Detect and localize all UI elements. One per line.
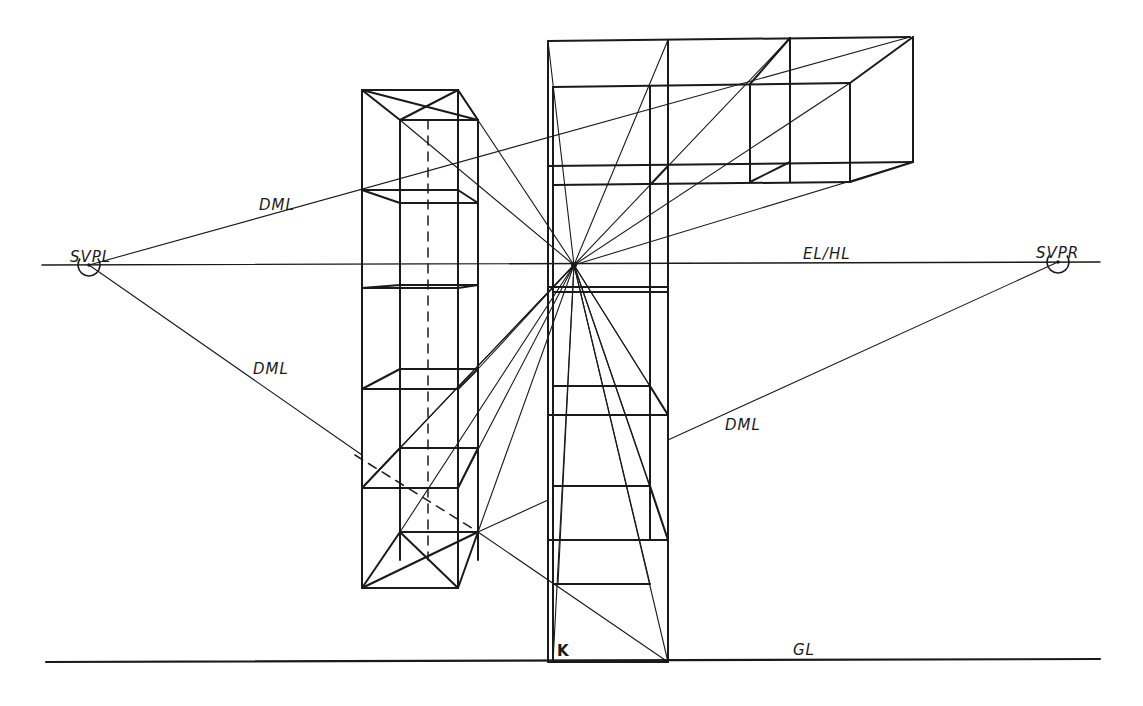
object-edge bbox=[553, 83, 850, 87]
label-svpr: SVPR bbox=[1036, 246, 1079, 261]
construction-line bbox=[89, 265, 362, 455]
object-edge bbox=[458, 448, 478, 488]
perspective-diagram bbox=[0, 0, 1143, 706]
object-lines bbox=[362, 37, 913, 662]
object-edge bbox=[750, 38, 790, 84]
object-edge bbox=[548, 162, 913, 166]
construction-line bbox=[574, 83, 850, 265]
label-dml-lower-left: DML bbox=[253, 362, 289, 377]
construction-line bbox=[89, 37, 910, 265]
label-dml-upper-left: DML bbox=[259, 198, 295, 213]
object-edge bbox=[400, 532, 458, 588]
object-edge bbox=[553, 182, 850, 185]
label-svpl: SVPL bbox=[70, 250, 111, 265]
construction-line bbox=[478, 265, 574, 369]
object-edge bbox=[362, 448, 400, 488]
construction-line bbox=[668, 262, 1058, 440]
construction-line bbox=[574, 40, 668, 265]
construction-line bbox=[574, 265, 650, 584]
construction-line bbox=[478, 532, 668, 662]
object-edge bbox=[650, 166, 668, 185]
object-edge bbox=[362, 369, 400, 389]
label-k: K bbox=[557, 644, 570, 659]
object-edge bbox=[362, 190, 400, 203]
object-edge bbox=[750, 162, 790, 182]
object-edge bbox=[650, 486, 668, 540]
hidden-line bbox=[355, 455, 478, 532]
object-edge bbox=[400, 90, 458, 120]
label-dml-right: DML bbox=[725, 418, 761, 433]
construction-line bbox=[574, 265, 650, 386]
label-ground-line: GL bbox=[793, 643, 815, 658]
object-edge bbox=[850, 37, 913, 83]
object-edge bbox=[850, 162, 913, 182]
object-edge bbox=[548, 37, 910, 41]
object-edge bbox=[650, 386, 668, 415]
construction-line bbox=[478, 265, 574, 532]
object-edge bbox=[458, 190, 478, 203]
label-eye-level-horizon-line: EL/HL bbox=[803, 247, 851, 262]
construction-line bbox=[574, 265, 650, 486]
construction-line bbox=[574, 38, 790, 265]
center-of-vision-point-icon bbox=[571, 262, 577, 268]
construction-line bbox=[558, 265, 574, 584]
construction-line bbox=[478, 500, 548, 532]
object-edge bbox=[458, 369, 478, 389]
